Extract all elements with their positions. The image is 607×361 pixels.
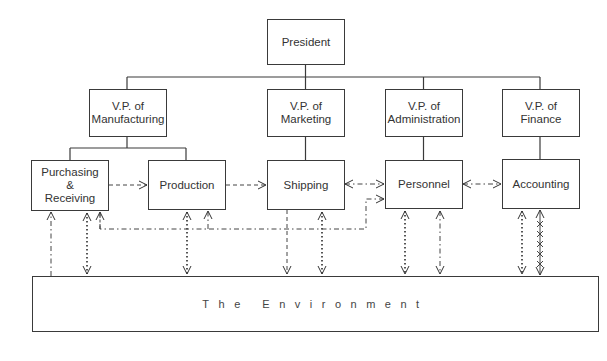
vp-manufacturing-label: V.P. of Manufacturing (92, 100, 165, 126)
vp-administration-box: V.P. of Administration (385, 89, 463, 137)
accounting-box: Accounting (502, 159, 580, 209)
vp-finance-label: V.P. of Finance (521, 100, 562, 126)
vp-marketing-label: V.P. of Marketing (281, 100, 332, 126)
purchasing-receiving-box: Purchasing & Receiving (31, 160, 109, 211)
accounting-label: Accounting (513, 178, 570, 191)
personnel-box: Personnel (385, 160, 463, 209)
production-label: Production (160, 179, 215, 192)
vp-administration-label: V.P. of Administration (388, 100, 461, 126)
environment-box: The Environment (32, 276, 599, 332)
president-box: President (267, 19, 345, 65)
purchasing-receiving-label: Purchasing & Receiving (41, 166, 99, 205)
shipping-box: Shipping (267, 160, 345, 210)
president-label: President (282, 36, 331, 49)
shipping-label: Shipping (284, 179, 329, 192)
vp-marketing-box: V.P. of Marketing (267, 89, 345, 137)
production-box: Production (148, 160, 226, 210)
org-chart-diagram: President V.P. of Manufacturing V.P. of … (0, 0, 607, 361)
environment-label: The Environment (202, 298, 428, 311)
vp-finance-box: V.P. of Finance (502, 89, 580, 137)
vp-manufacturing-box: V.P. of Manufacturing (89, 89, 167, 137)
personnel-label: Personnel (398, 178, 450, 191)
environment-flows (51, 210, 543, 276)
